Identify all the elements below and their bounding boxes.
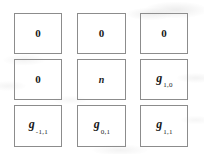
grid-cell-r2-c2: g1,1 <box>140 105 188 147</box>
cell-subscript: 0,1 <box>101 128 111 136</box>
grid-cell-r1-c1: n <box>77 59 126 100</box>
cell-base-symbol: 0 <box>35 73 41 85</box>
cell-value-r2-c0: g-1,1 <box>29 118 47 133</box>
grid-cell-r0-c0: 0 <box>14 13 62 54</box>
cell-subscript: 1,0 <box>163 81 173 89</box>
grid-cell-r1-c0: 0 <box>14 59 62 100</box>
cell-value-r0-c0: 0 <box>35 28 41 39</box>
cell-base-symbol: g <box>156 71 162 85</box>
cell-base-symbol: 0 <box>161 27 167 39</box>
cell-base-symbol: g <box>156 117 162 131</box>
cell-value-r2-c1: g0,1 <box>94 118 110 133</box>
neighborhood-grid: 0000ng1,0g-1,1g0,1g1,1 <box>0 0 204 154</box>
cell-base-symbol: 0 <box>99 27 105 39</box>
cell-base-symbol: g <box>94 117 100 131</box>
cell-value-r2-c2: g1,1 <box>156 118 172 133</box>
grid-cell-r0-c2: 0 <box>140 13 188 54</box>
cell-base-symbol: n <box>99 74 105 85</box>
grid-cell-r0-c1: 0 <box>77 13 126 54</box>
cell-value-r0-c2: 0 <box>161 28 167 39</box>
cell-base-symbol: 0 <box>35 27 41 39</box>
cell-value-r1-c1: n <box>99 75 105 85</box>
cell-subscript: 1,1 <box>163 128 173 136</box>
cell-value-r0-c1: 0 <box>99 28 105 39</box>
cell-subscript: -1,1 <box>36 128 48 136</box>
grid-cell-r1-c2: g1,0 <box>140 59 188 100</box>
cell-base-symbol: g <box>29 117 35 131</box>
grid-cell-r2-c0: g-1,1 <box>14 105 62 147</box>
cell-value-r1-c0: 0 <box>35 74 41 85</box>
grid-cell-r2-c1: g0,1 <box>77 105 126 147</box>
cell-value-r1-c2: g1,0 <box>156 72 172 87</box>
